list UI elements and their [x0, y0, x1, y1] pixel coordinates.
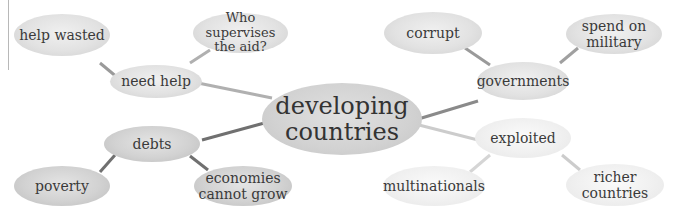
node-label: multinationals — [383, 178, 485, 194]
node-label: corrupt — [406, 25, 459, 41]
node-label-line1: spend on — [582, 18, 646, 34]
node-need-help: need help — [110, 65, 202, 98]
node-richer-countries: richer countries — [566, 164, 664, 206]
node-exploited: exploited — [475, 118, 571, 158]
node-label: exploited — [490, 130, 555, 146]
node-economies-cannot-grow: economies cannot grow — [194, 166, 292, 206]
node-label-line2: cannot grow — [199, 186, 288, 202]
center-node: developing countries — [262, 83, 422, 155]
node-label: need help — [121, 73, 191, 89]
node-label: poverty — [35, 178, 89, 194]
node-label: help wasted — [19, 27, 105, 43]
node-multinationals: multinationals — [383, 166, 485, 206]
node-label-line2: the aid? — [214, 40, 267, 55]
node-label-line2: countries — [582, 185, 649, 201]
node-debts: debts — [104, 126, 200, 162]
node-poverty: poverty — [14, 166, 110, 206]
node-governments: governments — [477, 62, 569, 100]
node-who-supervises: Who supervises the aid? — [193, 13, 288, 53]
node-spend-on-military: spend on military — [566, 14, 662, 54]
node-label-line1: economies — [205, 170, 280, 186]
node-label: debts — [132, 136, 171, 152]
node-label: governments — [477, 73, 570, 89]
node-label-line1: richer — [593, 169, 636, 185]
node-corrupt: corrupt — [384, 12, 482, 54]
center-line2: countries — [285, 119, 399, 145]
node-help-wasted: help wasted — [14, 14, 110, 56]
node-label-line1: Who supervises — [193, 11, 288, 41]
center-line1: developing — [275, 93, 408, 119]
node-label-line2: military — [586, 34, 641, 50]
